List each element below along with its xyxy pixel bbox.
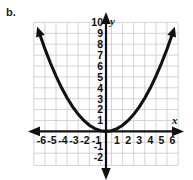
y-axis-arrow-bottom <box>101 168 110 180</box>
x-tick-label: 6 <box>170 134 176 146</box>
parabola-graph: y x -6 -5 -4 -3 -2 -1 1 2 3 4 5 6 10 9 8… <box>0 0 193 180</box>
x-tick-label: 3 <box>136 134 142 146</box>
x-axis-label: x <box>171 114 178 126</box>
x-tick-label: 4 <box>147 134 153 146</box>
figure-panel: b. <box>0 0 193 180</box>
y-tick-labels: 10 9 8 7 6 5 4 3 2 1 -1 -2 <box>91 16 103 163</box>
y-tick-label: -2 <box>94 151 103 163</box>
curve-arrow-left <box>36 27 45 38</box>
x-tick-label: -6 <box>37 134 46 146</box>
x-tick-label: -2 <box>80 134 89 146</box>
x-tick-label: -5 <box>47 134 56 146</box>
y-axis-label: y <box>108 15 115 27</box>
x-tick-label: 5 <box>158 134 164 146</box>
x-tick-label: -4 <box>58 134 67 146</box>
x-tick-label: 2 <box>125 134 131 146</box>
x-tick-label: 1 <box>114 134 120 146</box>
axes <box>28 12 184 180</box>
curve-arrow-right <box>167 27 176 38</box>
x-tick-label: -3 <box>69 134 78 146</box>
y-tick-label: 1 <box>97 114 103 126</box>
